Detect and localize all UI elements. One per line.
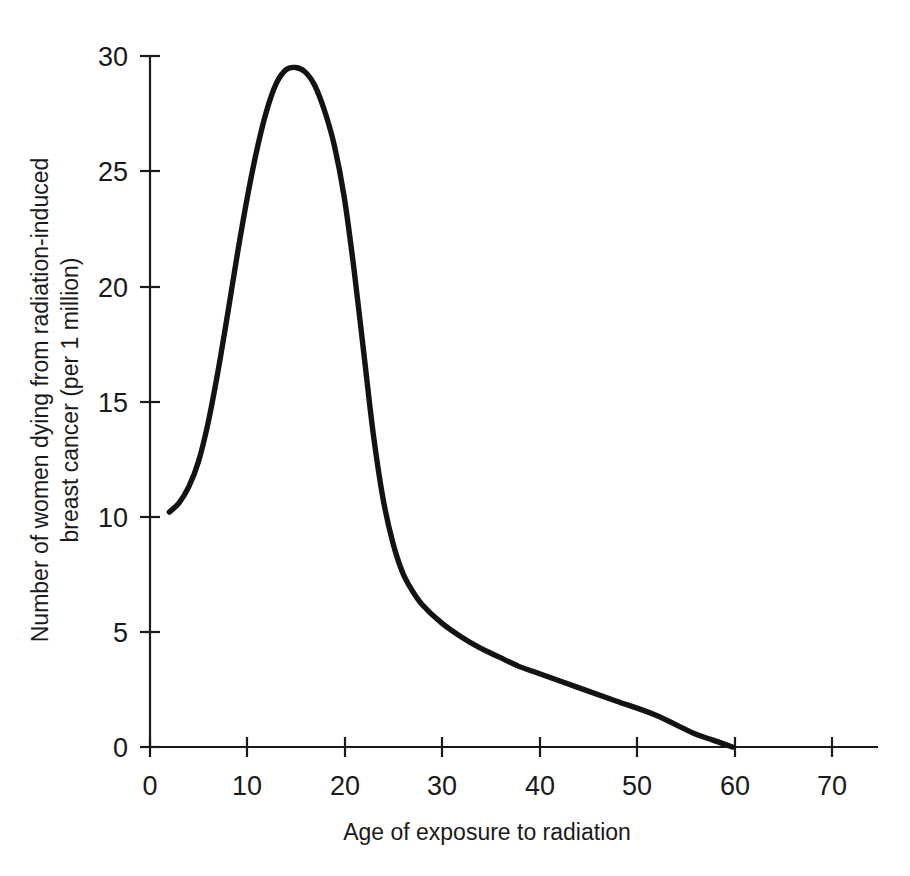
x-tick-label-30: 30 <box>427 771 457 801</box>
x-axis-title: Age of exposure to radiation <box>343 819 631 845</box>
y-tick-label-10: 10 <box>98 503 128 533</box>
chart-canvas: 30 25 20 15 10 5 0 0 10 20 30 40 50 60 7… <box>0 0 910 876</box>
y-tick-label-25: 25 <box>98 157 128 187</box>
x-tick-label-20: 20 <box>330 771 360 801</box>
y-tick-label-30: 30 <box>98 42 128 72</box>
x-tick-label-0: 0 <box>142 771 157 801</box>
chart-figure: 30 25 20 15 10 5 0 0 10 20 30 40 50 60 7… <box>0 0 910 876</box>
x-tick-label-10: 10 <box>232 771 262 801</box>
y-axis-title-line1: Number of women dying from radiation-ind… <box>27 158 53 643</box>
y-tick-label-5: 5 <box>113 618 128 648</box>
y-tick-label-15: 15 <box>98 388 128 418</box>
y-tick-label-0: 0 <box>113 733 128 763</box>
y-axis-title-line2: breast cancer (per 1 million) <box>57 257 83 542</box>
x-tick-label-70: 70 <box>817 771 847 801</box>
chart-background <box>0 0 910 876</box>
x-tick-label-40: 40 <box>525 771 555 801</box>
x-tick-label-50: 50 <box>622 771 652 801</box>
y-tick-label-20: 20 <box>98 273 128 303</box>
x-tick-label-60: 60 <box>720 771 750 801</box>
